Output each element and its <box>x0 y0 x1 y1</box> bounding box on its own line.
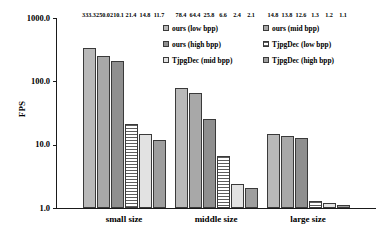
bar-rect: 14.8 <box>267 134 280 208</box>
bar-value-label: 14.8 <box>140 11 151 18</box>
legend-swatch-icon <box>263 57 269 63</box>
bar-rect: 64.4 <box>189 93 202 208</box>
legend-item-label: ours (high bpp) <box>172 40 221 49</box>
bar-rect: 210.1 <box>111 61 124 208</box>
bar: 21.4 <box>125 18 138 208</box>
bar-rect: 14.8 <box>139 134 152 208</box>
legend-item-label: ours (mid bpp) <box>272 24 319 33</box>
bar-rect: 2.1 <box>245 188 258 208</box>
y-axis-tick-100: 100.0 <box>8 77 50 86</box>
bar: 250.0 <box>97 18 110 208</box>
bar-value-label: 64.4 <box>190 11 201 18</box>
legend-item[interactable]: TjpgDec (mid bpp) <box>163 56 263 65</box>
bar-rect: 78.4 <box>175 88 188 208</box>
bar-value-label: 2.4 <box>233 11 241 18</box>
bar-rect: 21.4 <box>125 124 138 208</box>
bar-rect: 25.8 <box>203 119 216 208</box>
bar-value-label: 11.7 <box>154 11 165 18</box>
legend-swatch-icon <box>263 25 269 31</box>
bar-value-label: 2.1 <box>247 11 255 18</box>
fps-bar-chart: FPS 1000.0 100.0 10.0 1.0 333.3250.0210.… <box>0 0 382 251</box>
y-axis-tick-1000: 1000.0 <box>8 14 50 23</box>
y-axis-title: FPS <box>17 89 27 129</box>
legend-swatch-icon <box>163 25 169 31</box>
bar-value-label: 12.6 <box>296 11 307 18</box>
y-tick-mark-100 <box>53 81 56 82</box>
bar-rect: 1.1 <box>337 205 350 208</box>
y-axis-line <box>56 18 57 209</box>
legend-item-label: ours (low bpp) <box>172 24 218 33</box>
bar-value-label: 333.3 <box>82 11 96 18</box>
legend-item[interactable]: ours (mid bpp) <box>263 24 378 33</box>
y-tick-mark-1000 <box>53 18 56 19</box>
bar-value-label: 250.0 <box>96 11 110 18</box>
bar-value-label: 1.2 <box>325 11 333 18</box>
bar-value-label: 13.8 <box>282 11 293 18</box>
legend-swatch-icon <box>163 41 169 47</box>
bar: 14.8 <box>139 18 152 208</box>
bar-value-label: 21.4 <box>126 11 137 18</box>
bar-value-label: 6.6 <box>219 11 227 18</box>
bar-value-label: 14.8 <box>268 11 279 18</box>
y-axis-tick-1: 1.0 <box>8 204 50 213</box>
bar-rect: 12.6 <box>295 138 308 208</box>
bar-rect: 1.3 <box>309 201 322 208</box>
legend-item-label: TjpgDec (high bpp) <box>272 56 334 65</box>
bar-rect: 13.8 <box>281 136 294 208</box>
legend-item[interactable]: TjpgDec (low bpp) <box>263 40 378 49</box>
bar-value-label: 25.8 <box>204 11 215 18</box>
bar-value-label: 1.3 <box>311 11 319 18</box>
bar-rect: 2.4 <box>231 184 244 208</box>
bar-rect: 6.6 <box>217 156 230 208</box>
bar-rect: 11.7 <box>153 140 166 208</box>
legend-item[interactable]: ours (low bpp) <box>163 24 263 33</box>
x-axis-label-large-size: large size <box>248 214 368 224</box>
y-axis-tick-10: 10.0 <box>8 140 50 149</box>
bar: 333.3 <box>83 18 96 208</box>
bar-rect: 1.2 <box>323 203 336 208</box>
bar-value-label: 1.1 <box>339 11 347 18</box>
legend-item-label: TjpgDec (mid bpp) <box>172 56 232 65</box>
legend-swatch-icon <box>163 57 169 63</box>
legend-swatch-icon <box>263 41 269 47</box>
chart-legend: ours (low bpp)ours (mid bpp)ours (high b… <box>163 20 378 68</box>
bar-rect: 250.0 <box>97 56 110 208</box>
legend-item[interactable]: TjpgDec (high bpp) <box>263 56 378 65</box>
bar-group-small-size: 333.3250.0210.121.414.811.7 <box>80 18 168 208</box>
y-tick-mark-10 <box>53 145 56 146</box>
y-tick-mark-1 <box>53 208 56 209</box>
bar-rect: 333.3 <box>83 48 96 208</box>
legend-item[interactable]: ours (high bpp) <box>163 40 263 49</box>
bar-group-bars: 333.3250.0210.121.414.811.7 <box>80 18 168 208</box>
bar: 210.1 <box>111 18 124 208</box>
bar-value-label: 210.1 <box>110 11 124 18</box>
legend-item-label: TjpgDec (low bpp) <box>272 40 331 49</box>
x-axis-line <box>56 208 376 209</box>
bar-value-label: 78.4 <box>176 11 187 18</box>
